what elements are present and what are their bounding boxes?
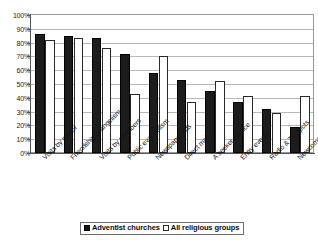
y-axis: 100%90%80%70%60%50%40%30%20%10%0% <box>0 14 30 154</box>
bar-all-religious-groups <box>159 56 169 153</box>
y-axis-tick-label: 70% <box>2 53 30 60</box>
y-axis-tick-label: 90% <box>2 25 30 32</box>
hollow-square-icon <box>163 225 169 231</box>
bar-all-religious-groups <box>45 40 55 153</box>
bar-group <box>31 15 59 153</box>
y-axis-tick-label: 10% <box>2 136 30 143</box>
y-axis-tick-label: 20% <box>2 122 30 129</box>
legend-entry: All religious groups <box>163 224 239 232</box>
x-axis-labels: Visits by pastorFriendship evangelismVis… <box>0 153 318 215</box>
y-axis-tick-label: 100% <box>2 12 30 19</box>
bar-chart: 100%90%80%70%60%50%40%30%20%10%0% Visits… <box>0 0 318 240</box>
bar-all-religious-groups <box>74 38 84 153</box>
y-axis-tick-label: 80% <box>2 39 30 46</box>
y-axis-tick-label: 50% <box>2 81 30 88</box>
chart-legend: Adventist churchesAll religious groups <box>80 222 244 235</box>
y-axis-tick-label: 40% <box>2 94 30 101</box>
filled-square-icon <box>84 225 90 231</box>
y-axis-tick-label: 60% <box>2 67 30 74</box>
bar-adventist-churches <box>35 34 45 153</box>
legend-label: All religious groups <box>171 224 239 232</box>
legend-label: Adventist churches <box>92 224 160 232</box>
legend-entry: Adventist churches <box>84 224 160 232</box>
bar-all-religious-groups <box>102 48 112 153</box>
y-axis-tick-label: 30% <box>2 108 30 115</box>
